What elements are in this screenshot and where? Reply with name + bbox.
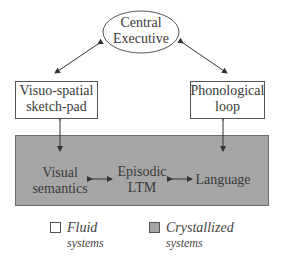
phonological-line2: loop <box>190 99 265 115</box>
visual-semantics-label: Visual semantics <box>28 165 92 197</box>
language-line1: Language <box>193 172 253 188</box>
phonological-line1: Phonological <box>190 83 265 99</box>
central-executive-line1: Central <box>103 15 179 31</box>
fluid-legend-line1: Fluid <box>67 221 97 235</box>
episodic-line1: Episodic <box>112 164 172 180</box>
visual-semantics-line1: Visual <box>28 165 92 181</box>
fluid-legend-line2: systems <box>67 236 104 250</box>
central-executive-label: Central Executive <box>103 15 179 47</box>
episodic-ltm-label: Episodic LTM <box>112 164 172 196</box>
crystallized-legend-swatch <box>149 222 160 233</box>
crystallized-legend-line1: Crystallized <box>166 221 234 235</box>
crystallized-legend-line2: systems <box>166 236 203 250</box>
phonological-loop-label: Phonological loop <box>190 83 265 115</box>
visual-semantics-line2: semantics <box>28 181 92 197</box>
episodic-line2: LTM <box>112 180 172 196</box>
language-label: Language <box>193 172 253 188</box>
fluid-legend-swatch <box>50 222 61 233</box>
visuo-spatial-sketchpad-label: Visuo-spatial sketch-pad <box>15 83 98 115</box>
visuo-spatial-line1: Visuo-spatial <box>15 83 98 99</box>
central-executive-line2: Executive <box>103 31 179 47</box>
visuo-spatial-line2: sketch-pad <box>15 99 98 115</box>
